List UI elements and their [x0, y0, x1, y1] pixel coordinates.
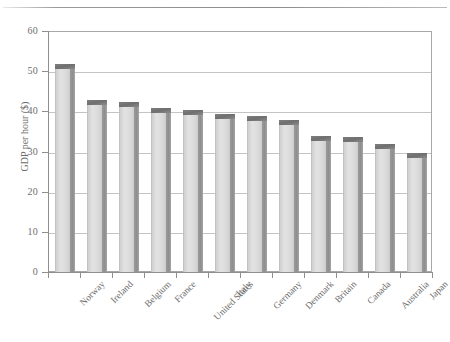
bar-face — [215, 118, 230, 273]
bar — [247, 116, 267, 273]
x-axis-category-label: France — [173, 279, 198, 304]
bar-face — [55, 68, 70, 273]
bar-top — [87, 100, 107, 105]
bar-face — [183, 114, 198, 273]
bar-side — [358, 141, 363, 273]
x-axis-category-label: Japan — [427, 279, 449, 301]
bar-top — [215, 114, 235, 119]
bar-side — [230, 118, 235, 273]
bar-face — [247, 120, 262, 273]
bar — [55, 64, 75, 273]
x-axis-tick — [368, 273, 369, 278]
bar-face — [343, 141, 358, 273]
bar-face — [311, 140, 326, 273]
bar-top — [375, 144, 395, 149]
x-axis-tick — [400, 273, 401, 278]
bar-face — [87, 104, 102, 273]
bar — [279, 120, 299, 273]
x-axis-tick — [432, 273, 433, 278]
bar — [215, 114, 235, 273]
bar-top — [343, 137, 363, 142]
x-axis-tick — [240, 273, 241, 278]
y-axis-tick — [42, 192, 48, 193]
x-axis-category-label: Australia — [399, 279, 431, 311]
x-axis-category-label: Britain — [333, 279, 359, 305]
y-axis-tick — [42, 111, 48, 112]
bar-side — [102, 104, 107, 273]
bar-top — [183, 110, 203, 115]
x-axis-tick — [80, 273, 81, 278]
bar-top — [279, 120, 299, 125]
x-axis-category-label: Germany — [271, 279, 303, 311]
bar-top — [311, 136, 331, 141]
bar — [311, 136, 331, 273]
bar-side — [422, 157, 427, 273]
bar-side — [70, 68, 75, 273]
x-axis-tick — [48, 273, 49, 278]
x-axis-tick — [112, 273, 113, 278]
x-axis-tick — [176, 273, 177, 278]
bar-side — [262, 120, 267, 273]
bar — [183, 110, 203, 273]
y-axis-tick — [42, 31, 48, 32]
y-axis-tick — [42, 232, 48, 233]
x-axis-category-label: Ireland — [109, 279, 135, 305]
bar-side — [326, 140, 331, 273]
plot-area — [48, 31, 432, 272]
bar — [87, 100, 107, 273]
gridline — [49, 72, 431, 73]
bar — [375, 144, 395, 273]
y-axis-tick — [42, 71, 48, 72]
x-axis-tick — [336, 273, 337, 278]
x-axis-tick — [208, 273, 209, 278]
top-horizontal-rule — [3, 7, 447, 8]
bar — [119, 102, 139, 273]
x-axis-tick — [272, 273, 273, 278]
x-axis-tick — [144, 273, 145, 278]
y-axis-line — [48, 31, 49, 273]
bar-face — [151, 112, 166, 273]
bar-chart-figure: 0102030405060 NorwayIrelandBelgiumFrance… — [0, 0, 450, 342]
bar-side — [198, 114, 203, 273]
bar-top — [55, 64, 75, 69]
x-axis-category-label: Canada — [365, 279, 392, 306]
y-axis-tick-label: 60 — [8, 26, 38, 36]
y-axis-tick-label: 10 — [8, 227, 38, 237]
bar-top — [247, 116, 267, 121]
bar — [151, 108, 171, 273]
bar-top — [119, 102, 139, 107]
x-axis-tick — [304, 273, 305, 278]
x-axis-category-label: Norway — [78, 279, 107, 308]
y-axis-title: GDP per hour ($) — [19, 82, 30, 192]
x-axis-category-label: Denmark — [303, 279, 335, 311]
bar-side — [166, 112, 171, 273]
bar-top — [151, 108, 171, 113]
bar — [407, 153, 427, 273]
x-axis-category-label: Belgium — [143, 279, 173, 309]
y-axis-tick — [42, 152, 48, 153]
bar-side — [390, 148, 395, 273]
bar-face — [407, 157, 422, 273]
bar — [343, 137, 363, 273]
bar-top — [407, 153, 427, 158]
bar-side — [134, 106, 139, 273]
bar-face — [119, 106, 134, 273]
y-axis-tick-label: 50 — [8, 66, 38, 76]
y-axis-tick-label: 0 — [8, 267, 38, 277]
bar-face — [375, 148, 390, 273]
bar-side — [294, 124, 299, 273]
bar-face — [279, 124, 294, 273]
